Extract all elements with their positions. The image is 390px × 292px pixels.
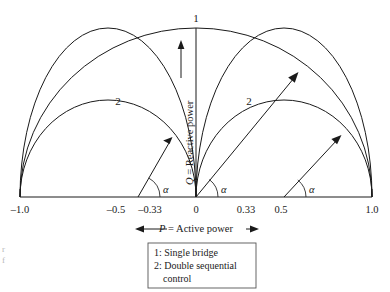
- firing-vector-center-arrowhead: [288, 72, 298, 83]
- inner-locus-left-curve-2: [20, 100, 196, 197]
- firing-vector-center: [196, 78, 294, 197]
- x-tick-label-2: –0.33: [137, 204, 162, 215]
- x-tick-label-5: 0.5: [274, 204, 287, 215]
- p-axis-caption: P = Active power: [158, 223, 233, 234]
- reactive-power-arrow-head: [178, 40, 185, 49]
- firing-vector-left-arrowhead: [163, 137, 172, 144]
- alpha-label-center: α: [221, 184, 227, 195]
- x-tick-label-6: 1.0: [365, 204, 378, 215]
- margin-caption-fragment-line-1: r: [2, 244, 5, 254]
- pq-capability-diagram: α α α 1 2 2 Q = Reactive power –1.0 –0.5…: [0, 0, 390, 292]
- x-tick-label-3: 0: [193, 204, 198, 215]
- curve-label-inner-right-2: 2: [246, 95, 252, 107]
- alpha-label-left: α: [163, 184, 169, 195]
- q-axis-caption: Q = Reactive power: [184, 100, 195, 185]
- alpha-arc-left: [149, 178, 160, 197]
- alpha-arc-right: [298, 180, 306, 197]
- firing-vector-right-arrowhead: [331, 135, 341, 144]
- x-tick-label-1: –0.5: [106, 204, 125, 215]
- curve-label-inner-left-2: 2: [115, 95, 121, 107]
- margin-caption-fragment-line-2: f: [2, 255, 5, 265]
- p-axis-caption-text: = Active power: [165, 223, 233, 234]
- curve-label-outer-1: 1: [193, 12, 199, 24]
- inner-locus-right-curve-2: [196, 100, 372, 197]
- alpha-label-right: α: [309, 184, 315, 195]
- outer-locus-left-converging-arc: [20, 28, 196, 197]
- outer-locus-right-converging-arc: [196, 28, 372, 197]
- p-caption-right-arrowhead: [250, 226, 259, 233]
- legend-line-1: 1: Single bridge: [154, 247, 218, 258]
- x-tick-label-0: –1.0: [10, 204, 29, 215]
- alpha-arc-center: [209, 180, 218, 198]
- legend-line-2: 2: Double sequential: [154, 260, 237, 271]
- legend-line-3: control: [163, 273, 192, 284]
- x-tick-label-4: 0.33: [237, 204, 255, 215]
- p-caption-left-arrowhead: [135, 226, 144, 233]
- q-axis-caption-text: = Reactive power: [184, 100, 195, 177]
